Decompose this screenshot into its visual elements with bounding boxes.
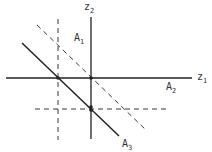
diagram-canvas: A1A2A3z1z2 xyxy=(0,0,212,152)
labels: A1A2A3z1z2 xyxy=(74,1,207,152)
label-A3: A3 xyxy=(122,138,132,152)
intersection-point-3 xyxy=(89,108,93,112)
axes xyxy=(6,17,192,139)
label-A1: A1 xyxy=(74,32,84,46)
axis-label-z1: z1 xyxy=(197,71,207,85)
label-A2: A2 xyxy=(166,81,176,95)
intersection-point-0 xyxy=(56,76,60,80)
lines xyxy=(22,19,170,140)
intersection-point-1 xyxy=(89,76,93,80)
axis-label-z2: z2 xyxy=(84,1,94,15)
